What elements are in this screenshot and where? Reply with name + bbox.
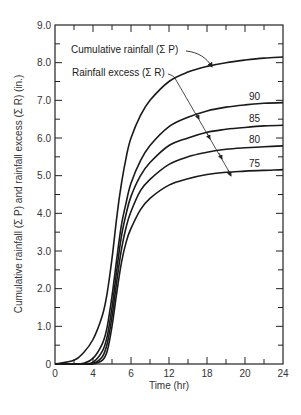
arrowhead-85 [207,133,210,139]
arrow-to-p-curve [186,51,212,67]
y-tick-label: 2.0 [37,283,51,294]
curve-label-75: 75 [249,158,261,169]
y-tick-labels: 01.02.03.04.05.06.07.08.09.0 [37,20,51,370]
curve-label-85: 85 [249,113,261,124]
x-tick-label: 24 [277,368,289,379]
arrowhead-80 [219,153,222,159]
y-tick-label: 0 [45,359,51,370]
y-axis-title: Cumulative rainfall (Σ P) and rainfall e… [13,75,24,314]
x-axis-title: Time (hr) [149,380,189,391]
y-tick-label: 4.0 [37,208,51,219]
x-tick-label: 12 [163,368,175,379]
annotation-rainfall-excess: Rainfall excess (Σ R) [72,67,165,78]
curve-cumulative-rainfall [55,57,283,364]
y-tick-label: 3.0 [37,246,51,257]
curve-label-80: 80 [249,134,261,145]
curve-label-90: 90 [249,91,261,102]
x-tick-label: 0 [52,368,58,379]
x-tick-label: 4 [90,368,96,379]
annotation-cumulative-rainfall: Cumulative rainfall (Σ P) [71,44,178,55]
chart: 01.02.03.04.05.06.07.08.09.0 04612182024… [0,0,301,415]
x-tick-label: 6 [128,368,134,379]
y-tick-label: 9.0 [37,20,51,31]
y-tick-label: 5.0 [37,170,51,181]
y-tick-label: 1.0 [37,321,51,332]
arrowhead-75 [228,170,231,176]
x-tick-label: 18 [201,368,213,379]
y-tick-label: 8.0 [37,57,51,68]
curve-rainfall-excess-75 [55,170,283,365]
curve-rainfall-excess-80 [55,146,283,364]
data-curves [55,57,283,364]
y-tick-label: 6.0 [37,133,51,144]
y-tick-label: 7.0 [37,95,51,106]
x-tick-label: 20 [239,368,251,379]
x-tick-labels: 04612182024 [52,368,289,379]
